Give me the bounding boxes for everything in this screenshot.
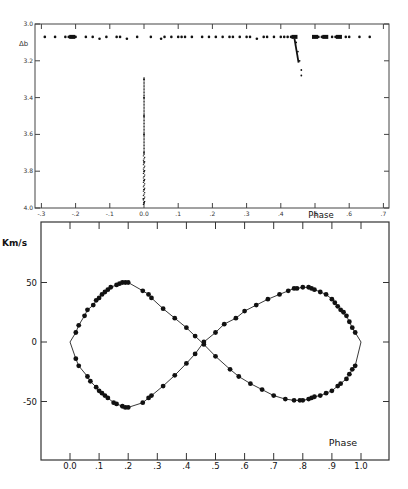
velocity-point [161,306,166,311]
eclipse-point [143,92,144,93]
velocity-point [228,367,233,372]
eclipse-point [143,151,144,152]
eclipse-point [144,161,145,162]
eclipse-point [143,182,144,183]
eclipse-point [143,164,144,165]
velocity-point [172,316,177,321]
velocity-point [76,363,81,368]
data-point [184,36,187,39]
data-point [300,69,302,71]
eclipse-point [144,201,145,202]
eclipse-point [143,148,144,149]
eclipse-point [143,186,144,187]
velocity-point [76,323,81,328]
x-tick-label: .2 [210,210,216,217]
eclipse-point [143,177,144,178]
velocity-point [140,400,145,405]
velocity-point [318,290,323,295]
data-point [238,36,241,39]
eclipse-point [143,98,144,99]
eclipse-point [143,85,144,86]
velocity-curves [70,283,361,408]
velocity-point [88,379,93,384]
eclipse-point [143,133,144,134]
x-tick-label: .4 [182,461,190,471]
km-s-label: Km/s [2,238,27,248]
eclipse-point [143,105,144,106]
velocity-point [353,363,358,368]
eclipse-point [143,169,144,170]
eclipse-point [143,132,144,133]
eclipse-point [143,119,144,120]
velocity-point [193,352,198,357]
velocity-point [126,405,131,410]
top-data-points [44,35,372,205]
data-point [348,36,351,39]
delta-b-label: Δb [19,40,29,48]
velocity-point [149,393,154,398]
velocity-point [242,309,247,314]
y-tick-label: 3.4 [23,94,33,101]
velocity-point [73,356,78,361]
eclipse-point [143,149,144,150]
top-y-axis-ticks: 3.03.23.43.63.84.0 [23,20,389,211]
eclipse-point [143,88,144,89]
eclipse-point [143,86,144,87]
eclipse-point [143,139,144,140]
eclipse-point [143,83,144,84]
eclipse-point [144,179,145,180]
velocity-curve [70,287,361,407]
eclipse-point [143,141,144,142]
velocity-point [312,394,317,399]
eclipse-point [143,130,144,131]
figure: -.3-.2-.10.0.1.2.3.4.5.6.7 3.03.23.43.63… [0,0,408,489]
velocity-point [286,288,291,293]
bottom-plot-frame [41,222,389,460]
eclipse-point [143,101,144,102]
eclipse-point [144,192,145,193]
velocity-point [350,325,355,330]
eclipse-point [143,167,144,168]
eclipse-point [143,94,144,95]
eclipse-point [143,138,144,139]
data-point [208,36,211,39]
velocity-point [254,303,259,308]
velocity-point [295,286,300,291]
eclipse-point [143,104,144,105]
eclipse-point [143,80,144,81]
velocity-point [338,381,343,386]
eclipse-point [143,113,144,114]
y-tick-label: 4.0 [23,204,33,211]
x-tick-label: -.1 [106,210,114,217]
velocity-point [161,384,166,389]
eclipse-point [143,142,144,143]
velocity-point [114,401,119,406]
eclipse-point [143,198,144,199]
velocity-point [324,292,329,297]
eclipse-point [143,160,144,161]
x-tick-label: 0.0 [63,461,77,471]
velocity-point [353,330,358,335]
velocity-point [213,354,218,359]
eclipse-point [143,158,144,159]
eclipse-point [143,108,144,109]
x-tick-label: .4 [278,210,284,217]
data-cluster [312,35,318,39]
eclipse-point [144,197,145,198]
velocity-data-points [73,280,357,410]
data-point [286,36,289,39]
data-point [105,36,108,39]
data-point [85,36,88,39]
eclipse-point [143,172,144,173]
velocity-point [324,391,329,396]
y-tick-label: 3.2 [23,57,33,64]
eclipse-point [143,110,144,111]
data-point [245,36,248,39]
eclipse-point [143,154,144,155]
data-point [256,37,259,40]
eclipse-point [143,195,144,196]
data-point [201,36,204,39]
data-point [215,36,218,39]
eclipse-point [143,152,144,153]
velocity-point [260,387,265,392]
